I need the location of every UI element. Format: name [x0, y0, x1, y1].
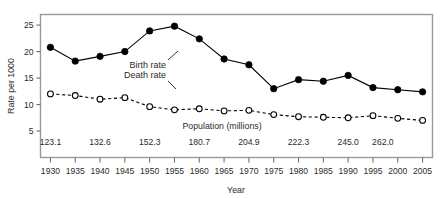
data-point-marker	[97, 53, 103, 59]
population-label: 204.9	[238, 137, 260, 147]
x-tick-label: 1965	[215, 166, 234, 176]
y-tick-label: 25	[24, 20, 34, 30]
data-point-marker	[147, 104, 153, 110]
population-labels: 123.1132.6152.3180.7204.9222.3245.0262.0	[40, 137, 394, 147]
population-label: 245.0	[337, 137, 359, 147]
data-point-marker	[395, 115, 401, 121]
x-tick-label: 1935	[66, 166, 85, 176]
data-point-marker	[172, 107, 178, 113]
data-point-marker	[370, 84, 376, 90]
birth-death-rate-chart: 510152025 193019351940194519501955196019…	[0, 0, 445, 198]
chart-canvas: 510152025 193019351940194519501955196019…	[0, 0, 445, 198]
x-tick-label: 1945	[115, 166, 134, 176]
data-point-marker	[196, 106, 202, 112]
data-point-marker	[320, 114, 326, 120]
data-point-marker	[47, 44, 53, 50]
data-point-marker	[146, 28, 152, 34]
annotation-death-rate: Death rate	[124, 70, 176, 89]
x-tick-label: 1995	[363, 166, 382, 176]
x-axis: 1930193519401945195019551960196519701975…	[41, 158, 432, 176]
x-tick-label: 1960	[190, 166, 209, 176]
data-point-marker	[395, 87, 401, 93]
y-tick-label: 10	[24, 100, 34, 110]
data-point-marker	[370, 113, 376, 119]
population-label: 262.0	[372, 137, 394, 147]
y-tick-label: 15	[24, 73, 34, 83]
annotation-birth-rate-label: Birth rate	[129, 60, 166, 70]
x-tick-label: 1955	[165, 166, 184, 176]
x-tick-label: 1950	[140, 166, 159, 176]
x-tick-label: 1970	[239, 166, 258, 176]
data-point-marker	[196, 36, 202, 42]
population-axis-title: Population (millions)	[182, 121, 261, 131]
data-point-marker	[296, 114, 302, 120]
data-point-marker	[171, 23, 177, 29]
series-line	[50, 26, 422, 92]
annotation-death-rate-label: Death rate	[124, 70, 166, 80]
y-tick-label: 5	[29, 126, 34, 136]
data-point-marker	[271, 85, 277, 91]
annotation-birth-rate: Birth rate	[129, 51, 178, 70]
x-tick-label: 1990	[339, 166, 358, 176]
data-point-marker	[97, 96, 103, 102]
data-point-marker	[122, 95, 128, 101]
y-tick-label: 20	[24, 47, 34, 57]
x-tick-label: 1985	[314, 166, 333, 176]
population-label: 180.7	[189, 137, 211, 147]
population-label: 123.1	[40, 137, 62, 147]
x-tick-label: 1975	[264, 166, 283, 176]
y-axis-title: Rate per 1000	[6, 58, 16, 114]
x-tick-label: 2005	[413, 166, 432, 176]
x-tick-label: 1930	[41, 166, 60, 176]
data-point-marker	[221, 108, 227, 114]
x-axis-title: Year	[227, 185, 245, 195]
data-point-marker	[345, 115, 351, 121]
data-point-marker	[246, 62, 252, 68]
population-label: 132.6	[89, 137, 111, 147]
x-tick-label: 1980	[289, 166, 308, 176]
data-point-marker	[221, 56, 227, 62]
data-point-marker	[419, 89, 425, 95]
population-label: 222.3	[288, 137, 310, 147]
data-point-marker	[72, 93, 78, 99]
series-death-rate	[48, 91, 426, 123]
x-tick-label: 1940	[90, 166, 109, 176]
series-line	[50, 94, 422, 120]
data-point-marker	[122, 48, 128, 54]
y-axis: 510152025	[24, 20, 41, 136]
data-point-marker	[345, 72, 351, 78]
population-label: 152.3	[139, 137, 161, 147]
data-point-marker	[420, 118, 426, 124]
series-birth-rate	[47, 23, 426, 95]
data-point-marker	[295, 76, 301, 82]
data-point-marker	[72, 58, 78, 64]
data-point-marker	[320, 78, 326, 84]
data-point-marker	[271, 112, 277, 118]
data-point-marker	[48, 91, 54, 97]
data-point-marker	[246, 107, 252, 113]
x-tick-label: 2000	[388, 166, 407, 176]
